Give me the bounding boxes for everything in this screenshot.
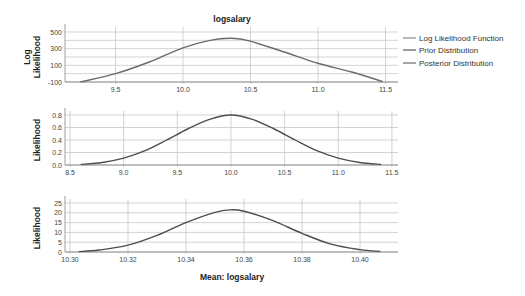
x-tick-label: 10.36 <box>235 256 253 263</box>
svg-text:Prior Distribution: Prior Distribution <box>419 46 478 55</box>
x-tick-label: 10.0 <box>224 169 238 176</box>
posterior-chart: Likelihood 10.3010.3210.3410.3610.3810.4… <box>32 196 398 263</box>
gridlines <box>65 108 398 167</box>
x-axis-label: Mean: logsalary <box>200 272 265 282</box>
y-tick-label: 300 <box>50 45 62 52</box>
y-tick-label: 10 <box>54 229 62 236</box>
y-tick-label: 0.4 <box>52 137 62 144</box>
x-tick-label: 10.38 <box>293 256 311 263</box>
x-tick-label: 10.0 <box>176 86 190 93</box>
y-tick-label: 0.0 <box>52 162 62 169</box>
x-tick-label: 10.32 <box>119 256 137 263</box>
y-tick-label: 0.2 <box>52 149 62 156</box>
chart-title: logsalary <box>213 14 251 24</box>
x-tick-label: 8.5 <box>65 169 75 176</box>
data-curve <box>79 210 381 252</box>
gridlines <box>65 24 398 84</box>
svg-text:Likelihood: Likelihood <box>32 36 42 79</box>
y-tick-label: 15 <box>54 219 62 226</box>
x-tick-label: 11.5 <box>379 86 392 93</box>
legend-item-log-likelihood: Log Likelihood Function <box>403 34 504 43</box>
y-tick-label: 500 <box>50 29 62 36</box>
y-tick-label: 25 <box>54 200 62 207</box>
gridlines <box>65 196 398 254</box>
svg-text:Log Likelihood Function: Log Likelihood Function <box>419 34 504 43</box>
x-tick-label: 11.5 <box>385 169 398 176</box>
y-axis-label: Likelihood <box>32 119 42 162</box>
y-tick-label: 0.6 <box>52 124 62 131</box>
y-axis-label: Log Likelihood <box>22 36 42 79</box>
y-tick-label: 0 <box>58 249 62 256</box>
posterior-curve <box>79 210 381 252</box>
y-tick-label: 20 <box>54 209 62 216</box>
legend-item-prior: Prior Distribution <box>403 46 478 55</box>
x-tick-label: 11.0 <box>332 169 345 176</box>
log-likelihood-curve <box>80 38 382 82</box>
y-axis-label: Likelihood <box>32 207 42 250</box>
axis-ticks: 10.3010.3210.3410.3610.3810.402520151050 <box>54 200 369 264</box>
y-tick-label: -100 <box>48 79 62 86</box>
x-tick-label: 10.40 <box>351 256 369 263</box>
x-tick-label: 11.0 <box>311 86 324 93</box>
svg-text:Log: Log <box>22 49 32 65</box>
x-tick-label: 9.5 <box>111 86 121 93</box>
y-tick-label: 0.8 <box>52 112 62 119</box>
svg-text:Posterior Distribution: Posterior Distribution <box>419 59 493 68</box>
x-tick-label: 10.5 <box>244 86 258 93</box>
axis-ticks: 8.59.09.510.010.511.011.50.80.60.40.20.0 <box>52 112 398 177</box>
prior-chart: Likelihood 8.59.09.510.010.511.011.50.80… <box>32 108 399 176</box>
bayesian-charts: logsalary Log Likelihood 9.510.010.511.0… <box>0 0 525 296</box>
data-curve <box>80 38 382 82</box>
legend: Log Likelihood Function Prior Distributi… <box>403 34 504 68</box>
x-tick-label: 10.34 <box>177 256 195 263</box>
x-tick-label: 9.5 <box>172 169 182 176</box>
y-tick-label: 5 <box>58 239 62 246</box>
y-tick-label: 100 <box>50 62 62 69</box>
legend-item-posterior: Posterior Distribution <box>403 59 493 68</box>
x-tick-label: 10.30 <box>61 256 79 263</box>
x-tick-label: 10.5 <box>278 169 292 176</box>
x-tick-label: 9.0 <box>119 169 129 176</box>
log-likelihood-chart: Log Likelihood 9.510.010.511.011.5500300… <box>22 24 398 93</box>
